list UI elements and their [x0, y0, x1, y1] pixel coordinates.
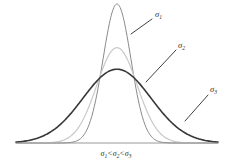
- series-label-sigma-2-subscript: 2: [182, 45, 185, 51]
- curve-sigma-2: [16, 48, 218, 143]
- series-labels-group: σ1 σ2 σ3: [155, 9, 217, 95]
- curves-group: [16, 4, 218, 143]
- leader-line-sigma-2: [146, 50, 176, 82]
- curve-sigma-3: [16, 69, 218, 142]
- series-label-sigma-3: σ3: [210, 84, 217, 95]
- leader-line-sigma-1: [131, 19, 152, 34]
- caption-sigma-3-subscript: 3: [128, 153, 132, 159]
- figure-caption: σ1<σ2<σ3: [101, 149, 132, 159]
- series-label-sigma-1: σ1: [155, 9, 162, 20]
- curve-sigma-1: [16, 4, 218, 143]
- series-label-sigma-3-subscript: 3: [213, 89, 217, 95]
- series-label-sigma-2: σ2: [178, 40, 185, 51]
- leader-lines-group: [131, 19, 208, 121]
- series-label-sigma-1-subscript: 1: [159, 14, 162, 20]
- leader-line-sigma-3: [185, 95, 208, 121]
- figure-canvas: σ1 σ2 σ3 σ1<σ2<σ3: [0, 0, 232, 164]
- gaussian-curves-figure: σ1 σ2 σ3 σ1<σ2<σ3: [0, 0, 232, 164]
